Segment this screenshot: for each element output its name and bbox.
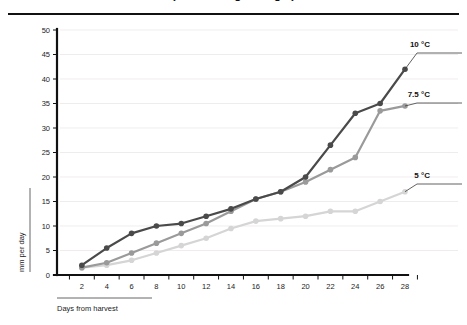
series-line-7.5c <box>82 106 405 268</box>
x-tick-label-10: 10 <box>177 282 185 291</box>
x-tick-label-16: 16 <box>252 282 260 291</box>
data-point <box>104 260 110 266</box>
data-point <box>352 155 358 161</box>
y-tick-label-35: 35 <box>42 99 50 108</box>
data-point <box>303 213 309 219</box>
chart-title: ( rate during storage ) <box>0 0 467 3</box>
data-point <box>377 101 383 107</box>
data-point <box>178 231 184 237</box>
data-point <box>178 221 184 227</box>
y-tick-label-10: 10 <box>42 222 50 231</box>
data-point <box>203 221 209 227</box>
data-point <box>129 258 135 264</box>
y-tick-label-20: 20 <box>42 173 50 182</box>
data-point <box>203 235 209 241</box>
x-tick-label-18: 18 <box>277 282 285 291</box>
data-point <box>253 218 259 224</box>
data-series <box>79 66 408 270</box>
x-tick-label-12: 12 <box>202 282 210 291</box>
data-point <box>328 142 334 148</box>
y-tick-label-15: 15 <box>42 197 50 206</box>
data-point <box>253 196 259 202</box>
x-tick-label-24: 24 <box>351 282 359 291</box>
data-point <box>352 209 358 215</box>
data-point <box>278 189 284 195</box>
title-divider-rule <box>8 13 459 15</box>
y-axis-title: mm per day <box>17 232 26 272</box>
leader-line-2 <box>405 184 462 192</box>
y-tick-label-5: 5 <box>46 246 50 255</box>
y-tick-label-30: 30 <box>42 124 50 133</box>
x-tick-label-26: 26 <box>376 282 384 291</box>
y-tick-label-25: 25 <box>42 148 50 157</box>
data-point <box>154 250 160 256</box>
x-tick-label-2: 2 <box>80 282 84 291</box>
data-point <box>203 213 209 219</box>
y-tick-label-0: 0 <box>46 271 50 280</box>
data-point <box>278 216 284 222</box>
x-tick-label-20: 20 <box>301 282 309 291</box>
y-tick-label-45: 45 <box>42 50 50 59</box>
y-tick-label-40: 40 <box>42 75 50 84</box>
data-point <box>328 167 334 173</box>
data-point <box>352 111 358 117</box>
data-point <box>178 243 184 249</box>
label-75c: 7.5 °C <box>408 90 431 99</box>
axes <box>53 29 417 280</box>
data-point <box>377 108 383 114</box>
chart-figure: ( rate during storage ) 0510152025303540… <box>0 0 467 325</box>
series-annotations: 10 °C7.5 °C5 °C <box>405 40 462 192</box>
data-point <box>228 226 234 232</box>
leader-line-0 <box>405 53 462 69</box>
data-point <box>228 206 234 212</box>
data-point <box>328 209 334 215</box>
data-point <box>129 250 135 256</box>
data-point <box>154 223 160 229</box>
data-point <box>303 179 309 185</box>
data-point <box>303 174 309 180</box>
x-tick-label-6: 6 <box>129 282 133 291</box>
data-point <box>129 231 135 237</box>
line-chart-plot: 0510152025303540455024681012141618202224… <box>0 0 467 325</box>
label-5c: 5 °C <box>414 171 430 180</box>
data-point <box>377 199 383 205</box>
data-point <box>79 262 85 268</box>
data-point <box>154 240 160 246</box>
gridlines <box>60 30 458 251</box>
x-tick-label-22: 22 <box>326 282 334 291</box>
x-tick-label-28: 28 <box>401 282 409 291</box>
x-tick-label-8: 8 <box>154 282 158 291</box>
x-tick-label-4: 4 <box>105 282 109 291</box>
x-axis-title: Days from harvest <box>57 304 119 313</box>
y-tick-label-50: 50 <box>42 26 50 35</box>
data-point <box>104 245 110 251</box>
x-tick-label-14: 14 <box>227 282 235 291</box>
label-10c: 10 °C <box>410 40 430 49</box>
